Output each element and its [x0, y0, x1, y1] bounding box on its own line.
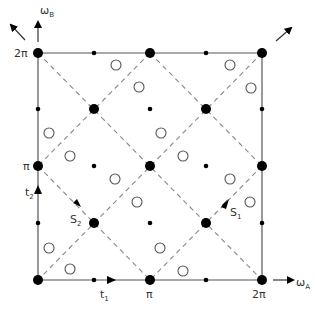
open-circle: [44, 243, 54, 253]
t1-label: t1: [100, 288, 109, 303]
large-dot: [257, 48, 267, 58]
large-dot: [201, 104, 211, 114]
open-circle: [155, 243, 165, 253]
open-circle: [65, 264, 75, 274]
small-dot: [92, 51, 97, 56]
open-circle: [225, 174, 235, 184]
large-dot: [145, 161, 155, 171]
small-dot: [260, 221, 265, 226]
large-dot: [257, 275, 267, 285]
large-dot: [33, 48, 43, 58]
small-dot: [92, 278, 97, 283]
small-dot: [36, 221, 41, 226]
open-circle: [225, 60, 235, 70]
open-circle: [111, 60, 121, 70]
s2-label: S2: [70, 213, 81, 228]
large-dot: [145, 48, 155, 58]
t2-arrowhead-icon: [34, 185, 42, 194]
x-tick-pi: π: [146, 288, 153, 301]
open-circle: [110, 174, 120, 184]
open-circle: [44, 128, 54, 138]
open-circle: [178, 266, 188, 276]
small-dot: [260, 107, 265, 112]
open-circle: [156, 128, 166, 138]
x-tick-2pi: 2π: [252, 288, 266, 301]
t1-arrowhead-icon: [107, 276, 116, 284]
large-dot: [145, 275, 155, 285]
large-dot: [257, 161, 267, 171]
open-circle: [178, 151, 188, 161]
large-dot: [201, 218, 211, 228]
y-tick-pi: π: [23, 160, 30, 173]
brillouin-zone-diagram: ωB ωA 2π π π 2π t1 t2 S2 S1: [0, 0, 315, 311]
open-circle: [245, 197, 255, 207]
large-dot: [33, 275, 43, 285]
large-dot: [89, 104, 99, 114]
t2-label: t2: [25, 186, 34, 201]
omega-b-label: ωB: [40, 4, 54, 19]
small-dot: [148, 107, 153, 112]
small-dot: [92, 164, 97, 169]
omega-a-label: ωA: [296, 276, 310, 291]
large-dot: [33, 161, 43, 171]
s1-arrowhead-icon-main: [221, 199, 229, 209]
small-dot: [204, 164, 209, 169]
small-dot: [148, 221, 153, 226]
open-circle: [132, 197, 142, 207]
large-dot: [89, 218, 99, 228]
s1-label: S1: [230, 206, 241, 221]
open-circle: [134, 82, 144, 92]
large-dots: [33, 48, 267, 285]
upper-left-arrow: [11, 25, 25, 40]
open-circle: [65, 151, 75, 161]
small-dot: [204, 51, 209, 56]
small-dot: [36, 107, 41, 112]
y-tick-2pi: 2π: [14, 47, 28, 60]
open-circle: [246, 83, 256, 93]
upper-right-arrow: [276, 28, 291, 41]
small-dot: [204, 278, 209, 283]
